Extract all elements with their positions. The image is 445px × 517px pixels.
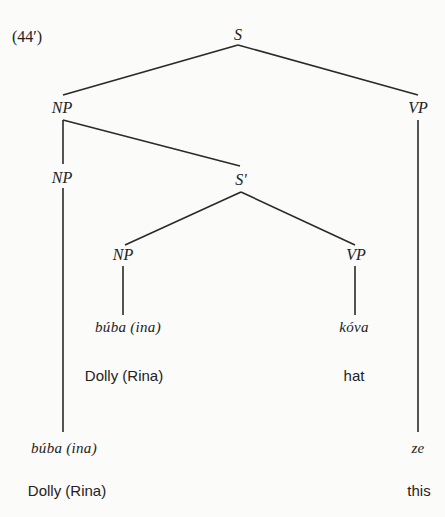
branch-s-np: [63, 45, 238, 95]
node-vp-rel: VP: [346, 246, 366, 264]
word-main-subject: búba (ina): [31, 440, 97, 457]
node-s: S: [234, 26, 242, 44]
gloss-main-predicate: this: [407, 482, 430, 499]
gloss-rel-verb: hat: [344, 367, 365, 384]
node-s-bar: S': [235, 171, 246, 189]
branch-np-sbar: [63, 120, 240, 166]
branch-s-vp: [238, 45, 418, 95]
node-vp-main: VP: [408, 99, 428, 117]
word-rel-verb: kóva: [339, 319, 369, 336]
syntax-tree-figure: (44′) S NP VP NP S' NP VP búba (ina) kóv…: [0, 0, 445, 517]
word-main-predicate: ze: [411, 440, 424, 457]
gloss-rel-subject: Dolly (Rina): [85, 367, 163, 384]
node-np-inner: NP: [52, 169, 72, 187]
word-rel-subject: búba (ina): [95, 319, 161, 336]
example-number: (44′): [12, 28, 42, 46]
node-np-rel: NP: [113, 246, 133, 264]
branch-sbar-vp: [241, 192, 355, 245]
gloss-main-subject: Dolly (Rina): [28, 482, 106, 499]
branch-sbar-np: [125, 192, 241, 245]
node-np-main: NP: [52, 99, 72, 117]
